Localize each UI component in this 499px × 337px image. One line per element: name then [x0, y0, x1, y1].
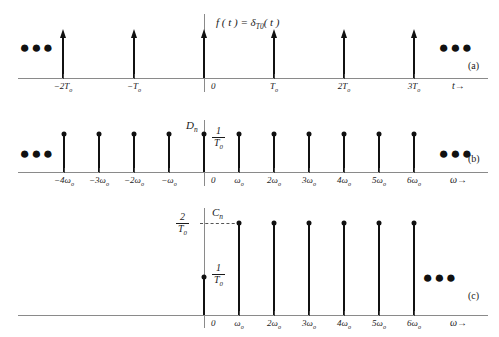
- spectral-line: [238, 134, 240, 172]
- tick-label-sub: o: [348, 181, 351, 187]
- spectral-line-marker: [167, 132, 172, 137]
- x-tick-label: −ωo: [161, 175, 177, 187]
- panel-c-dc-amplitude-label: 1 T0: [212, 263, 225, 287]
- tick-label-sub: o: [418, 181, 421, 187]
- panel-b-x-axis: [18, 172, 488, 173]
- x-tick-label: ωo: [234, 175, 243, 187]
- spectral-line: [343, 134, 345, 172]
- spectral-line-dc-marker: [202, 275, 207, 280]
- x-tick-label: 4ωo: [337, 175, 351, 187]
- panel-label-a: (a): [468, 60, 479, 71]
- x-tick: [414, 311, 415, 316]
- spectral-line: [168, 134, 170, 172]
- tick-label-sub: o: [69, 87, 72, 93]
- x-tick-label: −4ωo: [54, 175, 74, 187]
- x-tick: [309, 168, 310, 173]
- spectral-line-marker: [237, 221, 242, 226]
- tick-label-sub: o: [241, 181, 244, 187]
- tick-label-text: −4ω: [54, 175, 71, 185]
- x-tick-label: 3To: [408, 81, 421, 93]
- x-tick-label: −2To: [54, 81, 73, 93]
- ellipsis-left: ●●●: [19, 39, 54, 56]
- x-axis-arrow: →: [457, 317, 467, 328]
- spectral-line-marker: [97, 132, 102, 137]
- panel-label-c: (c): [468, 290, 479, 301]
- x-tick-label: 5ωo: [372, 318, 386, 330]
- panel-b-title: Dn: [186, 119, 198, 134]
- spectral-line: [63, 134, 65, 172]
- spectral-line: [133, 134, 135, 172]
- spectral-line-marker: [307, 221, 312, 226]
- dc-amplitude-denominator: T0: [212, 275, 225, 287]
- impulse-arrow: [273, 38, 275, 78]
- impulse-arrow-head: [341, 29, 347, 38]
- panel-c-x-axis-label: ω→: [450, 317, 467, 328]
- spectral-line: [308, 223, 310, 315]
- tick-label-text: 2ω: [267, 318, 278, 328]
- tick-label-sub: o: [141, 181, 144, 187]
- x-tick-label: 0: [211, 175, 216, 185]
- tick-label-text: −2T: [54, 81, 70, 91]
- panel-c-x-axis: [18, 315, 488, 316]
- x-tick-label: 0: [211, 81, 216, 91]
- panel-b-title-text: D: [186, 119, 194, 131]
- panel-c-title-subscript: n: [219, 212, 223, 221]
- spectral-line: [378, 223, 380, 315]
- x-tick: [344, 311, 345, 316]
- x-axis-arrow: →: [455, 80, 465, 91]
- impulse-arrow: [133, 38, 135, 78]
- spectral-line-marker: [272, 132, 277, 137]
- tick-label-text: 4ω: [337, 318, 348, 328]
- impulse-arrow-head: [60, 29, 66, 38]
- x-tick-label: −3ωo: [89, 175, 109, 187]
- panel-a-title: f ( t ) = δT0( t ): [216, 16, 280, 31]
- x-tick: [239, 311, 240, 316]
- x-tick: [274, 311, 275, 316]
- x-axis-label-text: ω: [450, 317, 457, 328]
- tick-label-text: 2T: [338, 81, 348, 91]
- panel-a-x-axis-label: t→: [452, 80, 465, 91]
- panel-a-title-text: f ( t ) = δ: [216, 16, 256, 28]
- spectral-line-marker: [62, 132, 67, 137]
- harmonic-amplitude-denominator-sub: 0: [184, 229, 187, 236]
- x-tick-label: 3ωo: [302, 318, 316, 330]
- spectral-line-marker: [307, 132, 312, 137]
- panel-b-title-subscript: n: [194, 125, 198, 134]
- impulse-arrow-head: [131, 29, 137, 38]
- tick-label-sub: o: [348, 324, 351, 330]
- impulse-arrow: [203, 38, 205, 78]
- impulse-arrow-head: [411, 29, 417, 38]
- tick-label-sub: o: [347, 87, 350, 93]
- tick-label-text: 6ω: [407, 318, 418, 328]
- x-tick-label: 6ωo: [407, 175, 421, 187]
- tick-label-text: 0: [211, 175, 216, 185]
- amplitude-denominator-sub: 0: [220, 143, 223, 150]
- tick-label-text: 5ω: [372, 318, 383, 328]
- panel-c-title: Cn: [212, 206, 223, 221]
- figure-impulse-train-spectra: f ( t ) = δT0( t ) −2To −To 0 To: [0, 0, 499, 337]
- spectral-line: [378, 134, 380, 172]
- spectral-line: [98, 134, 100, 172]
- spectral-line: [413, 223, 415, 315]
- tick-label-text: 0: [211, 318, 216, 328]
- tick-label-sub: o: [138, 87, 141, 93]
- spectral-line-marker: [412, 132, 417, 137]
- impulse-arrow-head: [201, 29, 207, 38]
- tick-label-text: 3ω: [302, 175, 313, 185]
- tick-label-text: 4ω: [337, 175, 348, 185]
- x-tick-label: ωo: [234, 318, 243, 330]
- panel-b-x-axis-label: ω→: [450, 174, 467, 185]
- impulse-arrow-head: [271, 29, 277, 38]
- tick-label-text: −2ω: [124, 175, 141, 185]
- ellipsis-right: ●●●: [438, 39, 473, 56]
- ellipsis-left: ●●●: [19, 145, 54, 162]
- x-tick: [169, 168, 170, 173]
- x-tick-label: −To: [127, 81, 141, 93]
- x-tick: [99, 168, 100, 173]
- x-tick: [63, 74, 64, 79]
- tick-label-text: 0: [211, 81, 216, 91]
- x-tick-label: 4ωo: [337, 318, 351, 330]
- amplitude-denominator: T0: [212, 138, 225, 150]
- impulse-arrow: [62, 38, 64, 78]
- panel-b-amplitude-label: 1 T0: [212, 126, 225, 150]
